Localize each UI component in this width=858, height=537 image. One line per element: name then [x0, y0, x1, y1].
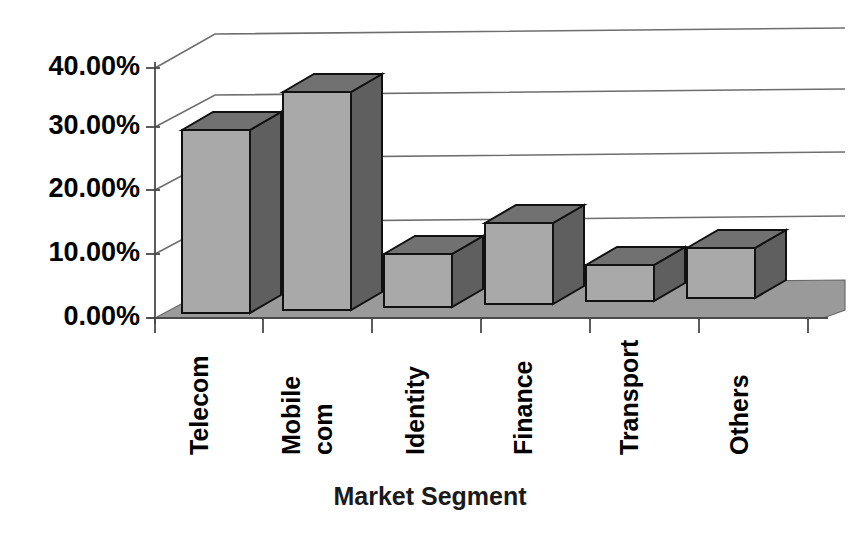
bar-front-face	[182, 130, 250, 313]
x-tick-label-mobile-com-line2: com	[309, 404, 337, 455]
gridline-40	[155, 28, 845, 68]
bar-telecom[interactable]	[182, 112, 281, 313]
y-tick-label-40: 40.00%	[48, 51, 140, 81]
bar-mobile-com[interactable]	[283, 74, 382, 310]
bar-front-face	[384, 254, 452, 307]
x-tickmarks	[155, 318, 808, 333]
bar-front-face	[485, 223, 553, 304]
x-axis-title: Market Segment	[333, 482, 527, 510]
x-tick-label-transport: Transport	[615, 339, 643, 455]
y-tick-label-30: 30.00%	[48, 110, 140, 140]
x-tick-labels: Telecom Mobile com Identity Finance Tran…	[185, 339, 753, 455]
y-tick-labels: 40.00% 30.00% 20.00% 10.00% 0.00%	[48, 51, 140, 331]
bar-front-face	[687, 248, 755, 298]
x-tick-label-telecom: Telecom	[185, 355, 213, 455]
chart-container: 40.00% 30.00% 20.00% 10.00% 0.00% Teleco…	[0, 0, 858, 537]
bar-finance[interactable]	[485, 205, 584, 304]
x-tick-label-others: Others	[725, 374, 753, 455]
bar-front-face	[586, 265, 654, 301]
x-tick-label-identity: Identity	[401, 366, 429, 455]
bar-chart: 40.00% 30.00% 20.00% 10.00% 0.00% Teleco…	[0, 0, 858, 537]
bar-others[interactable]	[687, 230, 786, 298]
x-tick-label-mobile-com-line1: Mobile	[277, 376, 305, 455]
y-tick-label-20: 20.00%	[48, 173, 140, 203]
bar-side-face	[351, 74, 382, 310]
bar-side-face	[250, 112, 281, 313]
y-tickmarks	[146, 68, 160, 318]
y-tick-label-10: 10.00%	[48, 237, 140, 267]
y-tick-label-0: 0.00%	[63, 301, 140, 331]
bar-identity[interactable]	[384, 236, 483, 307]
bar-front-face	[283, 92, 351, 310]
x-tick-label-finance: Finance	[509, 360, 537, 455]
